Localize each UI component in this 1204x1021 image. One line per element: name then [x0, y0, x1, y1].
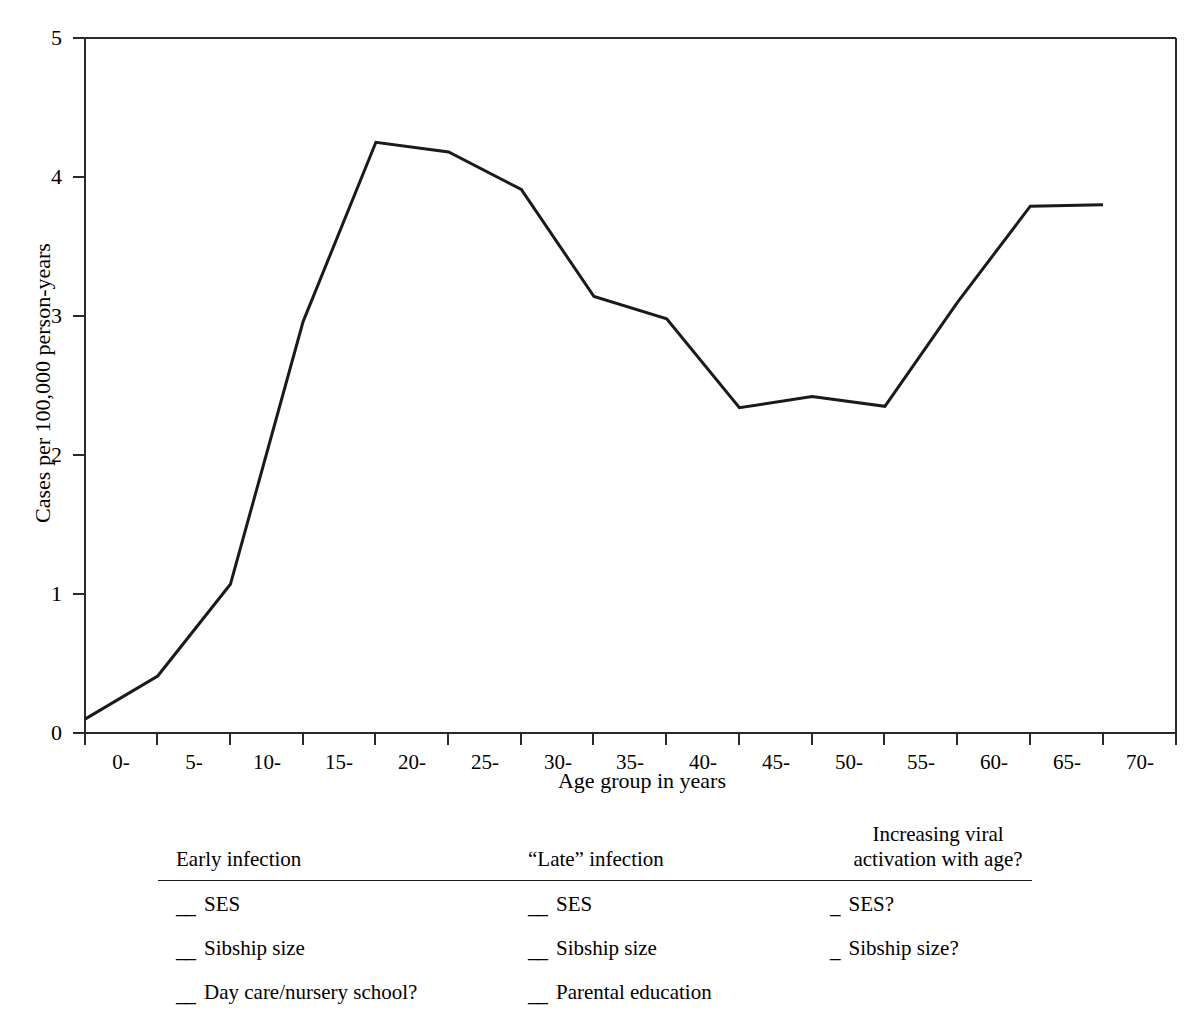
figure-root: 5 4 3 2 1 0 0- 5- 10- 15- 20- 25- 30- 35… [0, 0, 1204, 1021]
list-item-label: SES? [849, 894, 895, 915]
table-header-rule [158, 880, 1032, 881]
table-column-early-infection: Early infection SES Sibship size Day car… [176, 818, 506, 872]
ytick-label-1: 1 [32, 583, 62, 605]
xtick-label-13: 65- [1032, 752, 1102, 773]
column-items-late-infection: SES Sibship size Parental education [528, 894, 712, 1021]
xtick-label-3: 15- [304, 752, 374, 773]
dash-mark-icon [176, 896, 195, 917]
dash-mark-icon [176, 984, 195, 1005]
xtick-label-4: 20- [377, 752, 447, 773]
xtick-label-1: 5- [159, 752, 229, 773]
dash-mark-icon [176, 940, 195, 961]
list-item-label: Day care/nursery school? [204, 982, 417, 1003]
list-item-label: Parental education [556, 982, 712, 1003]
y-axis-label: Cases per 100,000 person-years [30, 218, 56, 548]
chart-canvas [0, 0, 1204, 810]
xtick-label-0: 0- [86, 752, 156, 773]
xtick-label-14: 70- [1105, 752, 1175, 773]
list-item: Day care/nursery school? [176, 982, 417, 1003]
column-header-line1: Increasing viral [818, 822, 1058, 847]
list-item: Sibship size? [830, 938, 959, 959]
list-item: SES? [830, 894, 959, 915]
column-header-line1: “Late” infection [528, 847, 664, 871]
dash-mark-icon [528, 984, 547, 1005]
column-items-viral-activation: SES? Sibship size? [830, 894, 959, 982]
line-chart: 5 4 3 2 1 0 0- 5- 10- 15- 20- 25- 30- 35… [0, 0, 1204, 810]
xtick-label-11: 55- [886, 752, 956, 773]
list-item-label: Sibship size? [849, 938, 959, 959]
table-column-viral-activation: Increasing viral activation with age? SE… [818, 818, 1058, 872]
list-item: SES [528, 894, 712, 915]
x-axis-label: Age group in years [452, 768, 832, 794]
column-header-late-infection: “Late” infection [528, 818, 818, 872]
table-column-late-infection: “Late” infection SES Sibship size Parent… [528, 818, 818, 872]
column-items-early-infection: SES Sibship size Day care/nursery school… [176, 894, 417, 1021]
dash-mark-icon [528, 896, 547, 917]
dash-mark-icon [528, 940, 547, 961]
x-ticks [85, 733, 1176, 745]
y-ticks [73, 38, 85, 733]
list-item-label: Sibship size [204, 938, 305, 959]
ytick-label-5: 5 [32, 27, 62, 49]
factors-table: Early infection SES Sibship size Day car… [158, 818, 1032, 1018]
list-item: Sibship size [528, 938, 712, 959]
column-header-viral-activation: Increasing viral activation with age? [818, 818, 1058, 872]
list-item: Sibship size [176, 938, 417, 959]
column-header-line1: Early infection [176, 847, 301, 871]
column-header-line2: activation with age? [818, 847, 1058, 872]
data-series-line [85, 142, 1103, 719]
ytick-label-4: 4 [32, 166, 62, 188]
list-item-label: SES [204, 894, 240, 915]
axis-lines [85, 38, 1176, 733]
list-item-label: Sibship size [556, 938, 657, 959]
xtick-label-2: 10- [232, 752, 302, 773]
ytick-label-0: 0 [32, 722, 62, 744]
list-item-label: SES [556, 894, 592, 915]
list-item: Parental education [528, 982, 712, 1003]
dash-mark-icon [830, 896, 840, 917]
column-header-early-infection: Early infection [176, 818, 506, 872]
list-item: SES [176, 894, 417, 915]
xtick-label-12: 60- [959, 752, 1029, 773]
dash-mark-icon [830, 940, 840, 961]
